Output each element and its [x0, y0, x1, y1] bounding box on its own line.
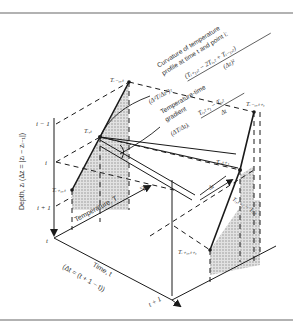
label-t-ip1-tp1: Tᵢ₊₁,ₜ₊₁ — [178, 248, 197, 255]
tick-i-minus-1: i − 1 — [36, 120, 50, 128]
delta-t-label-2: Δt — [207, 183, 216, 192]
label-t-i-tp1: Tᵢ,ₜ₊₁ — [216, 158, 230, 165]
tick-t-plus-1: t + 1 — [147, 295, 163, 309]
svg-text:(ΔT/Δt)ᵢ: (ΔT/Δt)ᵢ — [169, 121, 191, 138]
finite-difference-diagram: Depth, zᵢ (Δz = |zᵢ − zᵢ₋₁|) i − 1 i i +… — [0, 0, 293, 326]
svg-text:(Δz)²: (Δz)² — [222, 57, 238, 71]
tick-i-plus-1: i + 1 — [37, 204, 51, 212]
diagram-frame: Depth, zᵢ (Δz = |zᵢ − zᵢ₋₁|) i − 1 i i +… — [0, 0, 293, 326]
label-t-im1-t: Tᵢ₋₁,ₜ — [110, 76, 124, 83]
label-t-i-t: Tᵢ,ₜ — [84, 127, 92, 134]
label-t-im1-tp1: Tᵢ₋₁,ₜ₊₁ — [246, 100, 265, 107]
tick-i: i — [45, 159, 47, 167]
svg-text:Δt: Δt — [218, 107, 227, 116]
depth-axis-label: Depth, zᵢ (Δz = |zᵢ − zᵢ₋₁|) — [18, 133, 26, 210]
label-t-ip1-t: Tᵢ₊₁,ₜ — [52, 186, 66, 193]
tick-t: t — [46, 237, 49, 245]
